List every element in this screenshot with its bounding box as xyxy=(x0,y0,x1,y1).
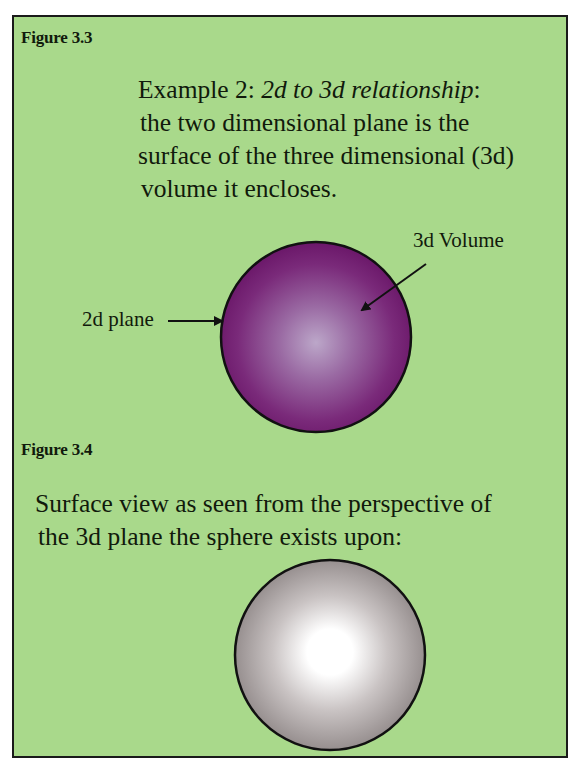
purple-sphere xyxy=(221,242,411,432)
gray-sphere xyxy=(235,560,425,750)
diagram-graphics xyxy=(0,0,579,766)
